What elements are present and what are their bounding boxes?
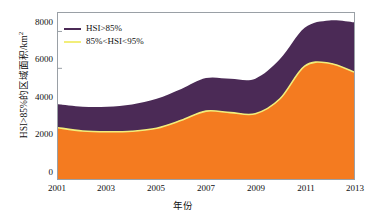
y-tick-label-4000: 4000	[13, 93, 53, 102]
y-tick-label-6000: 6000	[13, 55, 53, 64]
y-tick-label-0: 0	[13, 168, 53, 177]
x-axis-title: 年份	[0, 198, 366, 212]
legend-swatch-85-to-95	[64, 41, 81, 43]
x-tick-label-2003: 2003	[86, 184, 126, 193]
chart-legend: HSI>85% 85%<HSI<95%	[64, 22, 144, 48]
legend-item-hsi-gt-85[interactable]: HSI>85%	[64, 22, 144, 35]
x-tick-label-2011: 2011	[286, 184, 326, 193]
chart-figure: HSI>85%的区域面积/km2 8000 6000 4000 2000 0 2…	[0, 0, 366, 221]
legend-item-85-to-95[interactable]: 85%<HSI<95%	[64, 35, 144, 48]
x-tick-label-2013: 2013	[335, 184, 366, 193]
x-tick-label-2009: 2009	[236, 184, 276, 193]
y-tick-label-8000: 8000	[13, 18, 53, 27]
y-tick-label-2000: 2000	[13, 130, 53, 139]
legend-swatch-hsi-gt-85	[64, 28, 81, 30]
x-tick-label-2007: 2007	[186, 184, 226, 193]
legend-label-hsi-gt-85: HSI>85%	[86, 22, 122, 35]
x-tick-label-2001: 2001	[37, 184, 77, 193]
y-axis-title-superscript: 2	[17, 32, 25, 36]
y-axis-title-text: HSI>85%的区域面积/km	[19, 35, 29, 138]
legend-label-85-to-95: 85%<HSI<95%	[86, 35, 144, 48]
x-tick-label-2005: 2005	[136, 184, 176, 193]
